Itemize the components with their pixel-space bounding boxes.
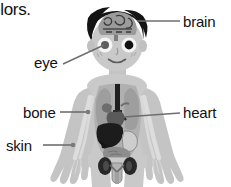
stomach: [122, 131, 137, 152]
label-eye: eye: [34, 55, 58, 70]
label-heart: heart: [183, 105, 216, 120]
label-skin: skin: [6, 138, 32, 153]
cutoff-caption-text: olors.: [0, 1, 31, 18]
diagram-canvas: olors. brain eye bone heart skin: [0, 0, 231, 187]
label-bone: bone: [23, 105, 56, 120]
label-brain: brain: [183, 14, 215, 29]
leader-dot-skin: [71, 143, 76, 148]
leader-dot-bone: [86, 110, 91, 115]
bladder: [110, 163, 124, 184]
